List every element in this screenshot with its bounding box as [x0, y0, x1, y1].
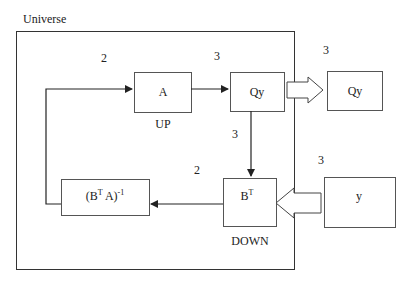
box-qy-outer: Qy — [328, 72, 383, 111]
universe-label: Universe — [23, 12, 66, 26]
edge-label-qy-to-bt: 3 — [232, 127, 238, 141]
edge-label-a-to-qy: 3 — [214, 49, 220, 63]
inverse-mid: A) — [103, 189, 118, 203]
block-arrow-output — [287, 77, 323, 103]
down-caption: DOWN — [231, 234, 269, 248]
box-a: A — [135, 73, 192, 113]
box-a-label: A — [159, 85, 168, 99]
bt-sup: T — [249, 188, 254, 197]
edge-label-qy-out: 3 — [323, 43, 329, 57]
block-arrow-input — [276, 188, 321, 218]
box-qy-outer-label: Qy — [348, 84, 363, 98]
box-bt: BT — [224, 179, 277, 227]
edge-label-bt-to-inverse: 2 — [194, 163, 200, 177]
inverse-base: (B — [86, 189, 98, 203]
box-qy-inner: Qy — [231, 73, 285, 112]
edge-label-feedback: 2 — [101, 51, 107, 65]
diagram-canvas: Universe A UP Qy Qy (BT A)-1 BT DOWN y — [0, 0, 408, 285]
box-inverse: (BT A)-1 — [62, 180, 150, 216]
bt-base: B — [241, 189, 249, 203]
inverse-sup-neg1: -1 — [118, 188, 125, 197]
up-caption: UP — [155, 117, 171, 131]
box-qy-inner-label: Qy — [250, 85, 265, 99]
box-y: y — [325, 178, 396, 228]
box-y-label: y — [356, 189, 362, 203]
edge-label-y-in: 3 — [318, 153, 324, 167]
